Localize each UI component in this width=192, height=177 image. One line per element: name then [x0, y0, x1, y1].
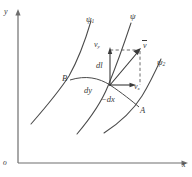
label-point-a: A: [140, 106, 145, 115]
label-dl: dl: [96, 61, 103, 70]
label-x-axis: x: [182, 161, 186, 169]
figure-canvas: [0, 0, 192, 177]
streamline-psi1: [31, 21, 91, 124]
label-streamline-psi2: ψ2: [157, 58, 165, 68]
label-dy: dy: [84, 86, 92, 95]
label-minus-dx: −dx: [101, 95, 115, 104]
point-P-marker: [109, 84, 111, 86]
label-y-axis: y: [4, 8, 8, 16]
vector-vy-arrowhead: [108, 47, 112, 54]
vector-v-shaft: [110, 53, 137, 85]
point-markers-group: [109, 84, 111, 86]
label-velocity-component-vy: vy: [94, 41, 100, 50]
label-velocity-vector-v: v: [143, 42, 147, 50]
label-velocity-component-vx: vx: [134, 83, 140, 92]
label-streamline-psi1: ψ1: [86, 15, 94, 25]
streamlines-group: [31, 21, 161, 134]
label-point-b: B: [62, 74, 67, 83]
y-axis-arrowhead: [15, 9, 20, 16]
axes-group: [15, 9, 188, 166]
label-streamline-psi: ψ: [130, 12, 136, 22]
label-origin: o: [3, 159, 7, 167]
